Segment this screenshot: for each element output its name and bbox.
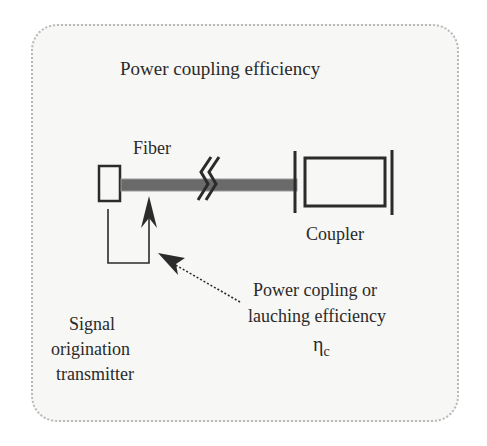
dotted-pointer-line (172, 263, 240, 302)
efficiency-label-line2: lauching efficiency (248, 306, 386, 327)
efficiency-symbol: ηc (313, 333, 330, 360)
transmitter-label-line1: Signal (69, 314, 115, 335)
transmitter-label-line2: origination (51, 339, 130, 360)
eta-subscript: c (323, 344, 329, 359)
transmitter-box (99, 166, 120, 201)
transmitter-label-line3: transmitter (56, 364, 134, 385)
efficiency-label-line1: Power copling or (253, 280, 377, 301)
pointer-arrow-icon (158, 253, 185, 275)
launch-bracket (108, 209, 149, 263)
coupler-box (305, 158, 385, 206)
eta-symbol: η (313, 333, 323, 355)
